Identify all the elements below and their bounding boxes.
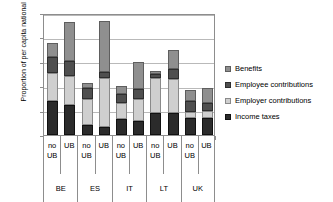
bar-segment-employer [47,73,58,101]
x-axis-scenario-label: no UB [112,136,129,174]
bar-segment-employer [99,78,110,127]
x-axis: no UBUBBEno UBUBESno UBUBITno UBUBLTno U… [43,136,215,202]
x-axis-scenario-label: no UB [146,136,163,174]
bar-segment-employee [202,103,213,111]
bar-segment-benefits [185,90,196,101]
bar-segment-employee [133,89,144,100]
bar-segment-benefits [99,21,110,71]
y-axis-title: Proportion of per capita national dispos… [19,0,28,102]
x-axis-group-label: LT [146,174,180,202]
x-axis-tick-mark [77,136,78,140]
bar-segment-benefits [64,22,75,62]
x-axis-scenario-text: no UB [81,141,91,161]
bar-stack [64,22,75,135]
bar-segment-employee [82,88,93,99]
x-axis-tick-mark [146,136,147,140]
bar-segment-employee [64,61,75,76]
bar-segment-taxes [185,118,196,135]
x-axis-tick-mark [43,136,44,140]
bar-segment-taxes [64,105,75,135]
bar-stack [168,50,179,135]
bar-segment-employer [64,76,75,104]
bar-stack [99,21,110,135]
x-axis-scenario-text: UB [64,141,74,151]
bar-segment-benefits [116,86,127,94]
x-axis-scenario-text: UB [167,141,177,151]
x-axis-scenario-text: UB [133,141,143,151]
x-axis-tick-mark [60,136,61,140]
x-axis-tick-mark [95,136,96,140]
bar-series-container [44,15,214,135]
bar-segment-employer [116,103,127,119]
legend-swatch-taxes-icon [225,114,231,120]
bar-segment-benefits [133,62,144,89]
x-axis-tick-mark [215,136,216,140]
x-axis-group-label: ES [77,174,111,202]
bar-stack [150,71,161,135]
legend-item: Benefits [225,64,333,73]
legend-item-label: Employer contributions [235,96,311,105]
x-axis-group-label: IT [112,174,146,202]
bar-segment-employer [168,79,179,113]
bar-segment-taxes [133,121,144,135]
legend-item-label: Employee contributions [235,80,313,89]
x-axis-scenario-label: no UB [77,136,94,174]
bar-segment-benefits [202,88,213,103]
x-axis-scenario-label: UB [163,136,180,174]
bar-segment-benefits [168,50,179,69]
bar-stack [47,43,58,135]
bar-segment-taxes [82,125,93,135]
bar-segment-taxes [150,113,161,135]
bar-stack [202,88,213,135]
legend-item: Income taxes [225,112,333,121]
legend-item-label: Income taxes [235,112,280,121]
bar-segment-employee [116,94,127,104]
bar-segment-taxes [99,127,110,135]
x-axis-scenario-label: UB [129,136,146,174]
legend-swatch-employer-icon [225,98,231,104]
chart-figure: Proportion of per capita national dispos… [0,0,333,202]
chart-legend: BenefitsEmployee contributionsEmployer c… [225,64,333,128]
x-axis-tick-mark [112,136,113,140]
legend-swatch-employee-icon [225,82,231,88]
bar-segment-employee [47,57,58,73]
x-axis-group-label: UK [181,174,215,202]
x-axis-tick-mark [198,136,199,140]
x-axis-tick-mark [129,136,130,140]
x-axis-scenario-text: no UB [116,141,126,161]
bar-segment-employer [202,111,213,118]
bar-segment-taxes [47,101,58,135]
bar-segment-employer [133,99,144,120]
bar-segment-employee [185,101,196,112]
bar-segment-employer [150,78,161,112]
x-axis-scenario-label: UB [198,136,215,174]
legend-item-label: Benefits [235,64,262,73]
x-axis-scenario-label: no UB [43,136,60,174]
x-axis-scenario-label: UB [95,136,112,174]
x-axis-tick-mark [181,136,182,140]
x-axis-scenario-label: no UB [181,136,198,174]
bar-segment-taxes [202,118,213,135]
legend-item: Employer contributions [225,96,333,105]
bar-segment-employer [82,99,93,125]
x-axis-scenario-text: no UB [47,141,57,161]
x-axis-group-label: BE [43,174,77,202]
x-axis-scenario-label: UB [60,136,77,174]
x-axis-scenario-text: UB [98,141,108,151]
bar-stack [116,86,127,135]
bar-segment-taxes [168,113,179,135]
x-axis-scenario-text: no UB [184,141,194,161]
legend-swatch-benefits-icon [225,66,231,72]
bar-stack [185,90,196,135]
x-axis-scenario-text: UB [201,141,211,151]
x-axis-tick-mark [163,136,164,140]
bar-stack [82,83,93,135]
bar-stack [133,62,144,135]
bar-segment-employee [168,69,179,79]
bar-segment-benefits [47,43,58,57]
bar-segment-taxes [116,119,127,135]
plot-area [43,14,215,136]
x-axis-scenario-text: no UB [150,141,160,161]
legend-item: Employee contributions [225,80,333,89]
